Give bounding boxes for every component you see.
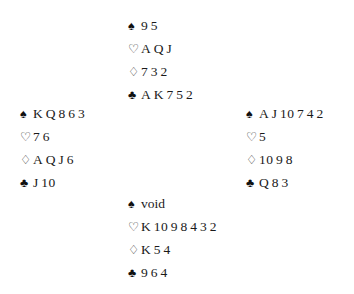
card-rank: A <box>259 106 269 121</box>
card-rank: 6 <box>43 129 50 144</box>
heart-icon: ♡ <box>128 38 141 61</box>
north-clubs-ranks: AK752 <box>141 83 193 106</box>
card-rank: 8 <box>272 175 279 190</box>
card-rank: A <box>33 152 43 167</box>
card-rank: 4 <box>161 265 168 280</box>
club-icon: ♣ <box>20 172 33 195</box>
card-rank: 3 <box>151 64 158 79</box>
south-clubs-line: ♣964 <box>128 261 217 284</box>
north-spades-line: ♠95 <box>128 14 193 37</box>
south-diamonds-ranks: K54 <box>141 238 171 261</box>
east-diamonds-ranks: 1098 <box>259 148 293 171</box>
hand-north: ♠95 ♡AQJ ♢732 ♣AK752 <box>128 14 193 106</box>
card-rank: 6 <box>68 106 75 121</box>
card-rank: 7 <box>297 106 304 121</box>
card-rank: 9 <box>171 219 178 234</box>
card-rank: A <box>141 41 151 56</box>
card-rank: Q <box>46 152 56 167</box>
card-rank: 9 <box>141 18 148 33</box>
card-rank: 7 <box>141 64 148 79</box>
west-spades-ranks: KQ863 <box>33 102 85 125</box>
north-hearts-ranks: AQJ <box>141 37 172 60</box>
east-hearts-line: ♡5 <box>246 125 324 148</box>
hand-south: ♠void ♡K1098432 ♢K54 ♣964 <box>128 192 217 284</box>
heart-icon: ♡ <box>246 126 259 149</box>
card-rank: Q <box>259 175 269 190</box>
card-rank: 5 <box>259 129 266 144</box>
card-rank: 10 <box>259 152 274 167</box>
card-rank: K <box>141 242 151 257</box>
card-rank: 2 <box>161 64 168 79</box>
card-rank: J <box>33 175 39 190</box>
card-rank: 6 <box>67 152 74 167</box>
north-diamonds-line: ♢732 <box>128 60 193 83</box>
club-icon: ♣ <box>246 172 259 195</box>
card-rank: 7 <box>33 129 40 144</box>
south-diamonds-line: ♢K54 <box>128 238 217 261</box>
south-hearts-ranks: K1098432 <box>141 215 217 238</box>
club-icon: ♣ <box>128 84 141 107</box>
card-rank: 9 <box>141 265 148 280</box>
bridge-deal-diagram: ♠95 ♡AQJ ♢732 ♣AK752 ♠KQ863 ♡76 ♢AQJ6 ♣J… <box>0 0 354 294</box>
heart-icon: ♡ <box>20 126 33 149</box>
card-rank: A <box>141 87 151 102</box>
north-spades-ranks: 95 <box>141 14 158 37</box>
card-rank: 8 <box>286 152 293 167</box>
card-rank: 10 <box>280 106 295 121</box>
card-rank: J <box>272 106 278 121</box>
card-rank: 5 <box>176 87 183 102</box>
east-spades-ranks: AJ10742 <box>259 102 324 125</box>
card-rank: J <box>59 152 65 167</box>
card-rank: 2 <box>210 219 217 234</box>
spade-icon: ♠ <box>128 193 141 216</box>
card-rank: 10 <box>154 219 169 234</box>
spade-icon: ♠ <box>246 103 259 126</box>
west-spades-line: ♠KQ863 <box>20 102 85 125</box>
card-rank: 10 <box>41 175 56 190</box>
east-diamonds-line: ♢1098 <box>246 148 324 171</box>
west-clubs-line: ♣J10 <box>20 171 85 194</box>
card-rank: Q <box>46 106 56 121</box>
card-rank: K <box>141 219 151 234</box>
east-clubs-ranks: Q83 <box>259 171 289 194</box>
east-clubs-line: ♣Q83 <box>246 171 324 194</box>
card-rank: 3 <box>282 175 289 190</box>
card-rank: 4 <box>164 242 171 257</box>
west-clubs-ranks: J10 <box>33 171 56 194</box>
hand-west: ♠KQ863 ♡76 ♢AQJ6 ♣J10 <box>20 102 85 194</box>
card-rank: 4 <box>307 106 314 121</box>
west-diamonds-ranks: AQJ6 <box>33 148 74 171</box>
card-rank: 8 <box>59 106 66 121</box>
card-rank: 8 <box>181 219 188 234</box>
club-icon: ♣ <box>128 262 141 285</box>
card-rank: 7 <box>167 87 174 102</box>
card-rank: K <box>154 87 164 102</box>
hand-east: ♠AJ10742 ♡5 ♢1098 ♣Q83 <box>246 102 324 194</box>
north-hearts-line: ♡AQJ <box>128 37 193 60</box>
spade-icon: ♠ <box>20 103 33 126</box>
card-rank: 2 <box>186 87 193 102</box>
card-rank: J <box>167 41 173 56</box>
north-clubs-line: ♣AK752 <box>128 83 193 106</box>
card-rank: 9 <box>276 152 283 167</box>
diamond-icon: ♢ <box>128 61 141 84</box>
east-spades-line: ♠AJ10742 <box>246 102 324 125</box>
card-rank: 5 <box>154 242 161 257</box>
card-rank: 6 <box>151 265 158 280</box>
west-diamonds-line: ♢AQJ6 <box>20 148 85 171</box>
heart-icon: ♡ <box>128 216 141 239</box>
card-rank: 5 <box>151 18 158 33</box>
south-spades-line: ♠void <box>128 192 217 215</box>
west-hearts-line: ♡76 <box>20 125 85 148</box>
north-diamonds-ranks: 732 <box>141 60 168 83</box>
diamond-icon: ♢ <box>20 149 33 172</box>
south-clubs-ranks: 964 <box>141 261 168 284</box>
card-rank: Q <box>154 41 164 56</box>
card-rank: 4 <box>190 219 197 234</box>
card-rank: 3 <box>78 106 85 121</box>
diamond-icon: ♢ <box>246 149 259 172</box>
west-hearts-ranks: 76 <box>33 125 50 148</box>
card-rank: 3 <box>200 219 207 234</box>
east-hearts-ranks: 5 <box>259 125 266 148</box>
south-hearts-line: ♡K1098432 <box>128 215 217 238</box>
